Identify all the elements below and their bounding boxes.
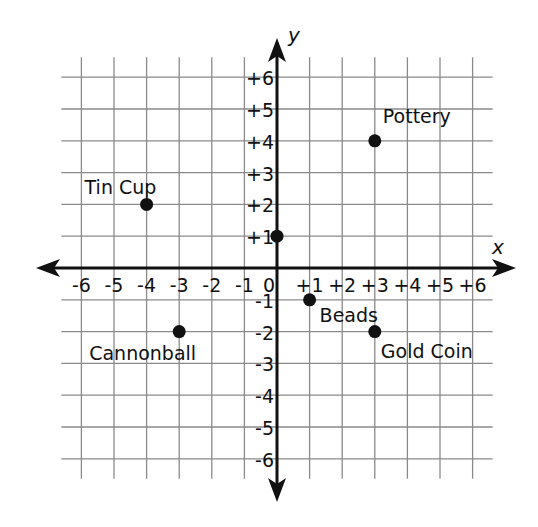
x-tick-label: +1 (296, 274, 324, 296)
y-tick-label: +4 (246, 131, 274, 153)
x-axis-label: x (491, 235, 504, 259)
y-tick-label: -3 (255, 353, 274, 375)
y-tick-label: -6 (255, 449, 274, 471)
y-axis-label: y (287, 23, 301, 47)
x-tick-label: -5 (105, 274, 124, 296)
axes: y x (36, 23, 516, 502)
y-tick-label: -4 (255, 385, 274, 407)
x-tick-labels: -6-5-4-3-2-10+1+2+3+4+5+6 (72, 274, 487, 296)
y-tick-label: +5 (246, 99, 274, 121)
y-tick-label: +1 (246, 226, 274, 248)
data-point-marker (140, 198, 153, 211)
y-tick-label: -5 (255, 417, 274, 439)
data-point-marker (271, 230, 284, 243)
x-tick-label: +2 (328, 274, 356, 296)
x-tick-label: +5 (426, 274, 454, 296)
x-tick-label: -3 (170, 274, 189, 296)
x-tick-label: +3 (361, 274, 389, 296)
point-label: Pottery (383, 105, 451, 127)
point-label: Tin Cup (84, 176, 157, 198)
x-tick-label: +4 (393, 274, 421, 296)
data-point-marker (173, 325, 186, 338)
x-tick-label: +6 (459, 274, 487, 296)
x-tick-label: -1 (235, 274, 254, 296)
x-tick-label: -2 (202, 274, 221, 296)
x-tick-label: -4 (137, 274, 156, 296)
y-tick-label: +2 (246, 194, 274, 216)
data-point-marker (303, 293, 316, 306)
point-label: Cannonball (89, 342, 196, 364)
y-tick-label: -2 (255, 322, 274, 344)
point-label: Beads (320, 304, 378, 326)
data-point-marker (368, 325, 381, 338)
y-tick-label: +6 (246, 67, 274, 89)
point-label: Gold Coin (381, 340, 473, 362)
y-tick-label: +3 (246, 163, 274, 185)
coordinate-plane: y x -6-5-4-3-2-10+1+2+3+4+5+6 +6+5+4+3+2… (0, 0, 538, 527)
data-point-marker (368, 134, 381, 147)
x-tick-label: -6 (72, 274, 91, 296)
y-tick-label: -1 (255, 290, 274, 312)
